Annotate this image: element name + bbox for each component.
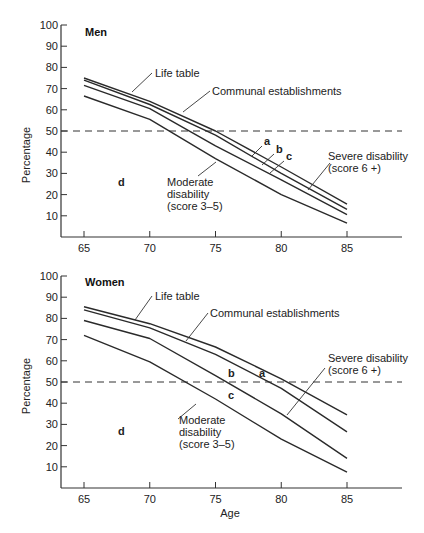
women-label-communal: Communal establishments <box>210 307 340 319</box>
y-tick-label: 90 <box>46 291 58 303</box>
y-tick-label: 70 <box>46 83 58 95</box>
women-label-moderate-2: disability <box>179 426 222 438</box>
women-panel-title: Women <box>85 276 125 288</box>
women-label-life-table: Life table <box>155 290 200 302</box>
y-tick-label: 40 <box>46 397 58 409</box>
series-line <box>84 85 347 214</box>
figure: 1020304050607080901006570758085 10203040… <box>0 0 424 533</box>
y-tick-label: 90 <box>46 40 58 52</box>
x-tick-label: 80 <box>275 242 287 254</box>
annotation-leader-line <box>183 91 210 112</box>
y-tick-label: 20 <box>46 440 58 452</box>
x-tick-label: 75 <box>209 242 221 254</box>
y-tick-label: 30 <box>46 167 58 179</box>
y-tick-label: 10 <box>46 461 58 473</box>
men-region-c: c <box>286 150 292 162</box>
y-tick-label: 70 <box>46 334 58 346</box>
y-tick-label: 50 <box>46 125 58 137</box>
women-region-b: b <box>228 367 235 379</box>
annotation-leader-line <box>132 73 152 92</box>
y-tick-label: 60 <box>46 355 58 367</box>
annotation-leader-line <box>308 163 330 190</box>
women-label-severe-1: Severe disability <box>328 352 409 364</box>
series-line <box>84 335 347 472</box>
annotation-leader-line <box>198 162 216 176</box>
annotation-leader-line <box>135 296 152 320</box>
x-tick-label: 80 <box>275 493 287 505</box>
women-label-moderate-1: Moderate <box>179 414 225 426</box>
y-tick-label: 30 <box>46 418 58 430</box>
x-tick-label: 65 <box>78 242 90 254</box>
men-label-life-table: Life table <box>155 67 200 79</box>
annotation-leader-line <box>262 154 274 165</box>
x-tick-label: 85 <box>341 242 353 254</box>
women-chart: 1020304050607080901006570758085 <box>40 270 402 505</box>
y-tick-label: 100 <box>40 19 58 31</box>
men-y-axis-label: Percentage <box>20 127 32 183</box>
y-tick-label: 20 <box>46 189 58 201</box>
men-label-severe-1: Severe disability <box>328 150 409 162</box>
men-label-moderate-1: Moderate <box>167 176 213 188</box>
men-label-communal: Communal establishments <box>212 85 342 97</box>
y-tick-label: 80 <box>46 312 58 324</box>
x-tick-label: 70 <box>144 242 156 254</box>
y-tick-label: 50 <box>46 376 58 388</box>
men-label-moderate-2: disability <box>167 188 210 200</box>
y-tick-label: 60 <box>46 104 58 116</box>
women-region-a: a <box>259 367 266 379</box>
men-panel-title: Men <box>85 26 107 38</box>
y-tick-label: 10 <box>46 210 58 222</box>
men-region-d: d <box>118 176 125 188</box>
men-label-severe-2: (score 6 +) <box>328 162 381 174</box>
annotation-leader-line <box>186 313 208 341</box>
x-tick-label: 65 <box>78 493 90 505</box>
women-label-severe-2: (score 6 +) <box>328 364 381 376</box>
women-region-d: d <box>118 425 125 437</box>
men-chart: 1020304050607080901006570758085 <box>40 19 402 254</box>
y-tick-label: 80 <box>46 61 58 73</box>
women-y-axis-label: Percentage <box>20 358 32 414</box>
y-tick-label: 40 <box>46 146 58 158</box>
x-tick-label: 70 <box>144 493 156 505</box>
women-region-c: c <box>228 389 234 401</box>
x-tick-label: 85 <box>341 493 353 505</box>
y-tick-label: 100 <box>40 270 58 282</box>
annotation-leader-line <box>287 368 325 415</box>
men-region-b: b <box>276 143 283 155</box>
men-label-moderate-3: (score 3–5) <box>167 200 223 212</box>
women-label-moderate-3: (score 3–5) <box>179 438 235 450</box>
x-axis-label: Age <box>220 507 240 519</box>
men-region-a: a <box>264 135 271 147</box>
x-tick-label: 75 <box>209 493 221 505</box>
